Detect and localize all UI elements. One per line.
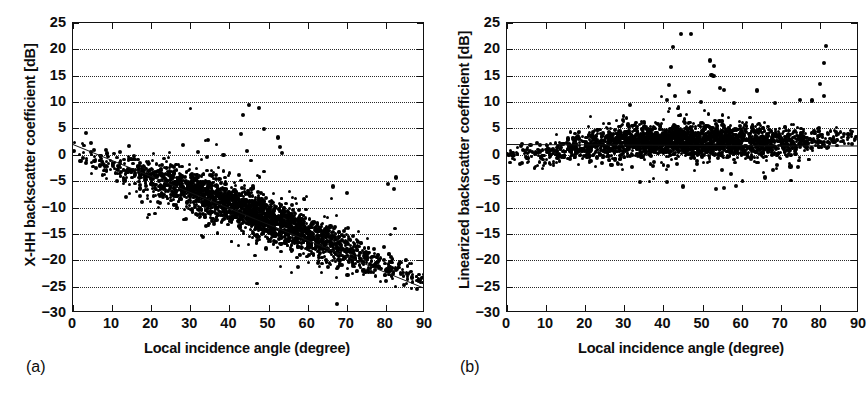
- scatter-point: [190, 172, 194, 176]
- y-tick-mark: [417, 234, 423, 235]
- scatter-point: [662, 163, 665, 166]
- y-tick-mark: [851, 181, 857, 182]
- scatter-point: [363, 257, 366, 260]
- scatter-point: [618, 154, 621, 157]
- scatter-point: [215, 143, 218, 146]
- scatter-point: [190, 207, 194, 211]
- gridline-y: [507, 49, 857, 50]
- scatter-point: [533, 166, 536, 169]
- scatter-point-outlier: [755, 88, 759, 92]
- scatter-point-outlier: [687, 90, 691, 94]
- scatter-point: [206, 190, 209, 193]
- scatter-point: [358, 251, 362, 255]
- scatter-point: [666, 134, 670, 138]
- scatter-point: [625, 116, 628, 119]
- scatter-point-outlier: [257, 106, 261, 110]
- scatter-point: [205, 169, 208, 172]
- panel-b-plot-area: [506, 22, 858, 312]
- scatter-point: [262, 170, 265, 173]
- scatter-point: [146, 188, 149, 191]
- scatter-point: [290, 271, 293, 274]
- scatter-point: [687, 149, 690, 152]
- scatter-point: [533, 152, 537, 156]
- scatter-point: [538, 149, 542, 153]
- scatter-point: [716, 147, 719, 150]
- scatter-point: [188, 163, 191, 166]
- scatter-point: [575, 148, 579, 152]
- scatter-point: [541, 167, 544, 170]
- x-tick-mark: [112, 23, 113, 29]
- x-tick-mark: [269, 305, 270, 311]
- scatter-point: [250, 221, 253, 224]
- scatter-point: [213, 210, 216, 213]
- scatter-point: [128, 192, 131, 195]
- scatter-point: [280, 197, 283, 200]
- scatter-point: [274, 206, 277, 209]
- scatter-point: [728, 150, 731, 153]
- y-tick-mark: [851, 260, 857, 261]
- scatter-point: [249, 159, 252, 162]
- x-tick-mark: [781, 305, 782, 311]
- scatter-point: [226, 223, 229, 226]
- y-tick-label: −10: [460, 199, 500, 214]
- scatter-point-outlier: [773, 101, 777, 105]
- scatter-point: [802, 135, 806, 139]
- scatter-point: [826, 140, 829, 143]
- y-tick-mark: [417, 102, 423, 103]
- scatter-point: [726, 155, 730, 159]
- scatter-point: [379, 280, 382, 283]
- scatter-point: [622, 152, 625, 155]
- scatter-point: [641, 128, 644, 131]
- y-tick-mark: [417, 128, 423, 129]
- scatter-point: [337, 230, 340, 233]
- x-tick-label: 30: [169, 316, 209, 331]
- x-tick-mark: [546, 23, 547, 29]
- scatter-point: [598, 128, 601, 131]
- scatter-point-outlier: [712, 64, 716, 68]
- x-tick-mark: [308, 305, 309, 311]
- scatter-point: [555, 133, 558, 136]
- scatter-point: [610, 154, 613, 157]
- scatter-point: [175, 206, 178, 209]
- scatter-point: [355, 269, 359, 273]
- scatter-point: [237, 173, 241, 177]
- scatter-point: [366, 256, 369, 259]
- scatter-point: [147, 213, 150, 216]
- scatter-point: [621, 168, 624, 171]
- scatter-point: [812, 137, 815, 140]
- scatter-point: [150, 180, 153, 183]
- scatter-point: [222, 169, 225, 172]
- scatter-point: [89, 141, 93, 145]
- scatter-point: [761, 134, 764, 137]
- scatter-point: [377, 258, 380, 261]
- scatter-point: [621, 123, 624, 126]
- scatter-point: [562, 149, 565, 152]
- y-tick-label: 5: [26, 120, 66, 135]
- scatter-point: [372, 247, 376, 251]
- scatter-point: [272, 242, 275, 245]
- x-tick-mark: [73, 23, 74, 29]
- y-tick-mark: [73, 128, 79, 129]
- scatter-point: [685, 125, 688, 128]
- scatter-point: [188, 204, 191, 207]
- y-tick-mark: [73, 208, 79, 209]
- gridline-y: [507, 76, 857, 77]
- scatter-point: [251, 184, 255, 188]
- scatter-point: [84, 161, 88, 165]
- scatter-point: [799, 127, 802, 130]
- x-tick-label: 10: [91, 316, 131, 331]
- scatter-point: [387, 262, 390, 265]
- scatter-point: [170, 190, 173, 193]
- x-tick-label: 30: [603, 316, 643, 331]
- scatter-point: [732, 129, 735, 132]
- scatter-point: [745, 121, 748, 124]
- scatter-point: [247, 243, 250, 246]
- scatter-point: [415, 287, 419, 291]
- y-tick-mark: [73, 181, 79, 182]
- scatter-point: [677, 155, 680, 158]
- scatter-point: [731, 135, 734, 138]
- scatter-point: [676, 149, 679, 152]
- x-tick-mark: [507, 23, 508, 29]
- scatter-point: [169, 196, 172, 199]
- x-tick-mark: [190, 23, 191, 29]
